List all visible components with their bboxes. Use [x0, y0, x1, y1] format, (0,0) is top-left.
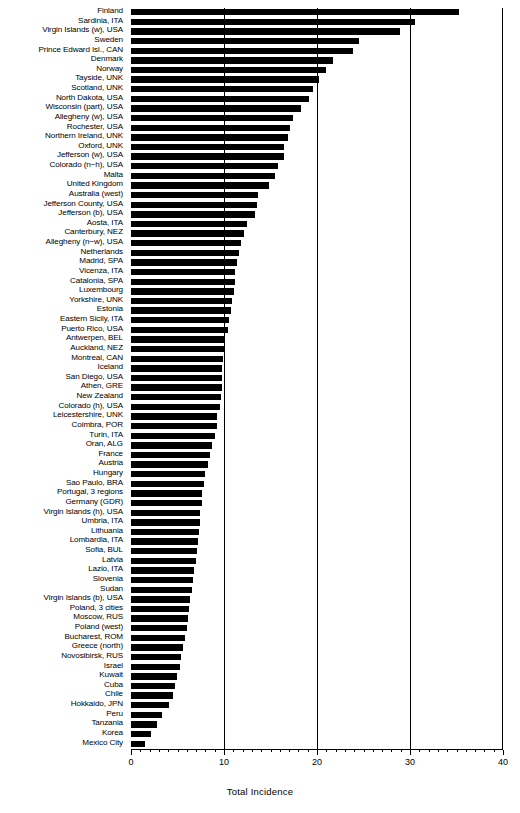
tick-minor: [205, 750, 206, 752]
category-label: Moscow, RUS: [73, 612, 123, 621]
bar: [131, 664, 180, 670]
bar: [131, 105, 301, 111]
bar: [131, 144, 284, 150]
category-label: Portugal, 3 regions: [57, 487, 123, 496]
bar: [131, 538, 198, 544]
x-axis-tick-labels: 010203040: [131, 757, 503, 771]
tick-minor: [484, 750, 485, 752]
category-label: Catalonia, SPA: [70, 276, 123, 285]
bar: [131, 384, 222, 390]
bar: [131, 615, 188, 621]
tick-minor: [345, 750, 346, 752]
tick-minor: [298, 750, 299, 752]
bar: [131, 269, 235, 275]
bar: [131, 346, 224, 352]
category-label: Virgin Islands (w), USA: [42, 25, 123, 34]
tick-minor: [215, 750, 216, 752]
category-label: Sofia, BUL: [85, 545, 123, 554]
x-tick-label: 20: [312, 757, 322, 768]
bar: [131, 259, 237, 265]
tick-minor: [140, 750, 141, 752]
category-label: Novosibirsk, RUS: [61, 651, 123, 660]
category-label: Kuwait: [99, 670, 123, 679]
category-label: Finland: [97, 6, 123, 15]
bar: [131, 211, 255, 217]
category-label: Lazio, ITA: [88, 564, 123, 573]
bar: [131, 548, 197, 554]
category-label: Cuba: [104, 680, 123, 689]
category-label: Hungary: [93, 468, 123, 477]
bar: [131, 625, 187, 631]
tick-minor: [261, 750, 262, 752]
category-label: Sudan: [100, 584, 123, 593]
category-label: Madrid, SPA: [79, 256, 123, 265]
category-label: Colorado (h), USA: [59, 401, 123, 410]
category-label: Sweden: [94, 35, 123, 44]
category-label: Eastern Sicily, ITA: [60, 314, 123, 323]
category-label: Aosta, ITA: [87, 218, 123, 227]
category-label: Coimbra, POR: [72, 420, 123, 429]
tick-minor: [457, 750, 458, 752]
x-tick-label: 40: [498, 757, 508, 768]
tick-minor: [391, 750, 392, 752]
category-label: Virgin Islands (b), USA: [44, 593, 123, 602]
category-label: Iceland: [98, 362, 123, 371]
bar: [131, 134, 288, 140]
tick-minor: [475, 750, 476, 752]
bar: [131, 519, 200, 525]
tick-minor: [419, 750, 420, 752]
category-label: Vicenza, ITA: [79, 266, 123, 275]
category-label: Tayside, UNK: [75, 73, 123, 82]
category-label: Colorado (n−h), USA: [50, 160, 123, 169]
tick-minor: [168, 750, 169, 752]
bar: [131, 712, 162, 718]
bar: [131, 635, 185, 641]
tick-minor: [233, 750, 234, 752]
category-label: Lombardia, ITA: [70, 535, 123, 544]
category-label: Wisconsin (part), USA: [45, 102, 123, 111]
bar: [131, 721, 157, 727]
category-label: Allegheny (n−w), USA: [46, 237, 123, 246]
category-label: Oxford, UNK: [78, 141, 123, 150]
category-label: San Diego, USA: [65, 372, 123, 381]
bar: [131, 596, 190, 602]
bar: [131, 606, 189, 612]
tick-minor: [336, 750, 337, 752]
bar: [131, 471, 205, 477]
bar: [131, 481, 204, 487]
tick-minor: [308, 750, 309, 752]
bar: [131, 356, 223, 362]
category-label: Virgin Islands (h), USA: [44, 507, 123, 516]
bar: [131, 461, 208, 467]
bar: [131, 192, 258, 198]
tick-minor: [252, 750, 253, 752]
bar: [131, 336, 225, 342]
category-label: Poland (west): [75, 622, 123, 631]
bar: [131, 365, 222, 371]
bar: [131, 230, 244, 236]
bar: [131, 317, 229, 323]
tick-major: [317, 750, 318, 755]
bar: [131, 86, 313, 92]
bar: [131, 250, 239, 256]
category-label: Sao Paulo, BRA: [66, 478, 123, 487]
bar: [131, 221, 247, 227]
bar: [131, 57, 333, 63]
tick-minor: [280, 750, 281, 752]
bar: [131, 19, 415, 25]
category-label: Mexico City: [82, 738, 123, 747]
tick-minor: [401, 750, 402, 752]
category-label: Latvia: [102, 555, 123, 564]
category-label: Norway: [96, 64, 123, 73]
tick-major: [224, 750, 225, 755]
tick-minor: [373, 750, 374, 752]
category-label-row: Mexico City: [0, 740, 127, 750]
bar: [131, 279, 235, 285]
bar: [131, 731, 151, 737]
x-tick-label: 0: [128, 757, 133, 768]
category-label: Turin, ITA: [89, 430, 123, 439]
bar: [131, 558, 196, 564]
gridline: [224, 8, 225, 750]
tick-minor: [150, 750, 151, 752]
tick-minor: [364, 750, 365, 752]
